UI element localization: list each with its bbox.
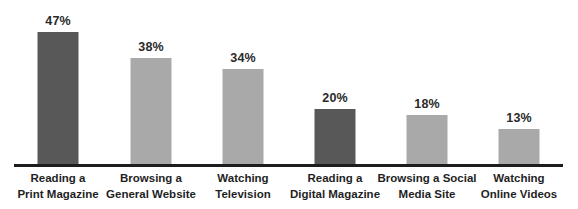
x-axis-label-line1: Reading a [6,170,110,186]
x-axis-label: Watching Television [191,170,295,202]
x-axis-label: Reading a Print Magazine [6,170,110,202]
x-axis-label-line1: Reading a [283,170,387,186]
x-axis-labels: Reading a Print Magazine Browsing a Gene… [0,170,578,209]
x-axis-label-line1: Watching [467,170,571,186]
x-axis-label-line1: Browsing a [99,170,203,186]
bar[interactable] [223,69,264,166]
x-axis-label-line2: Digital Magazine [283,186,387,202]
bar-group: 13% [473,0,565,166]
plot-area: 47% 38% 34% 20% 18% 13% [0,0,578,166]
bar-value-label: 13% [473,111,565,125]
bar[interactable] [131,58,172,166]
x-axis-label-line2: Television [191,186,295,202]
x-axis-label-line2: General Website [99,186,203,202]
bar[interactable] [407,115,448,166]
x-axis-label-line2: Media Site [375,186,479,202]
x-axis-label: Browsing a General Website [99,170,203,202]
bar-group: 20% [289,0,381,166]
x-axis-label: Browsing a Social Media Site [375,170,479,202]
x-axis-label-line1: Watching [191,170,295,186]
bar-group: 34% [197,0,289,166]
x-axis-label: Watching Online Videos [467,170,571,202]
x-axis-label-line1: Browsing a Social [375,170,479,186]
bar-value-label: 47% [12,14,104,28]
bar-value-label: 20% [289,91,381,105]
bar-chart: 47% 38% 34% 20% 18% 13% Reading a Print [0,0,578,209]
x-axis-label-line2: Online Videos [467,186,571,202]
bar[interactable] [315,109,356,166]
x-axis-label-line2: Print Magazine [6,186,110,202]
bar[interactable] [499,129,540,166]
bar-value-label: 34% [197,51,289,65]
bar[interactable] [38,32,79,166]
bar-group: 38% [105,0,197,166]
bar-value-label: 18% [381,97,473,111]
bar-value-label: 38% [105,40,197,54]
bar-group: 18% [381,0,473,166]
x-axis-label: Reading a Digital Magazine [283,170,387,202]
x-axis-line [14,164,563,167]
bar-group: 47% [12,0,104,166]
